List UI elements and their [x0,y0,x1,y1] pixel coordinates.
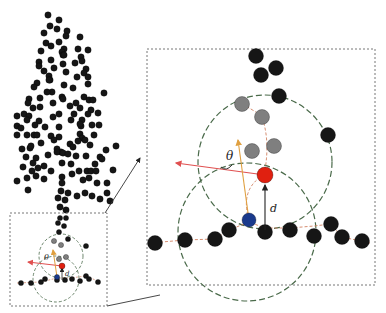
point [95,279,100,284]
tree-point [56,124,62,130]
tree-point [50,114,56,120]
tree-point [48,57,54,63]
tree-point [61,82,67,88]
point [63,215,68,220]
zoom-arrow-top [105,158,140,213]
tree-point [73,153,79,159]
tree-point [32,122,38,128]
tree-point [65,151,71,157]
tree-point [97,196,103,202]
tree-point [20,164,26,170]
tree-point [35,165,41,171]
tree-point [18,125,24,131]
tree-point [23,154,29,160]
point [254,68,269,83]
tree-point-cloud [14,12,119,213]
tree-point [41,176,47,182]
tree-point [79,58,85,64]
tree-point [45,12,51,18]
seed-point [242,213,256,227]
tree-point [77,105,83,111]
tree-point [37,104,43,110]
tree-point [14,178,20,184]
tree-point [38,48,44,54]
tree-point [25,100,31,106]
tree-point [54,149,60,155]
tree-point [76,168,82,174]
tree-point [30,160,36,166]
distance-label: d [270,202,277,215]
tree-point [19,146,25,152]
tree-point [41,163,47,169]
tree-point [94,180,100,186]
tree-point [74,74,80,80]
tree-point [61,52,67,58]
tree-point [103,147,109,153]
point [148,236,163,251]
tree-point [68,161,74,167]
theta-label: θ [44,253,49,262]
tree-point [104,190,110,196]
tree-point [77,121,83,127]
tree-point [60,96,66,102]
tree-point [65,190,71,196]
tree-point [63,69,69,75]
tree-point [89,193,95,199]
direction-arrow [28,262,62,266]
tree-point [68,117,74,123]
tree-point [37,95,43,101]
tree-point [83,153,89,159]
point [335,230,350,245]
tree-point [25,187,31,193]
point [283,223,298,238]
point [272,89,287,104]
tree-point [71,111,77,117]
current-point [59,263,65,269]
detail-frame [147,49,375,285]
tree-point [56,39,62,45]
distance-label: d [65,270,70,278]
tree-point [70,144,76,150]
tree-point [91,132,97,138]
tree-point [99,156,105,162]
tree-point [28,143,34,149]
tree-point [89,122,95,128]
tree-point [59,174,65,180]
tree-point [92,161,98,167]
tree-point [42,124,48,130]
point [83,243,88,248]
point [269,61,284,76]
tree-point [46,77,52,83]
neighbor-point [56,256,61,261]
neighbor-point [51,238,56,243]
tree-point [67,103,73,109]
tree-point [86,175,92,181]
tree-point [14,132,20,138]
tree-point [41,30,47,36]
point [307,229,322,244]
tree-point [55,195,61,201]
tree-point [56,17,62,23]
tree-point [34,132,40,138]
point-cloud-diagram: θd θd [0,0,386,313]
tree-point [36,63,42,69]
tree-point [72,60,78,66]
neighbor-point [63,254,68,259]
point [355,234,370,249]
tree-point [75,46,81,52]
tree-point [31,84,37,90]
tree-point [41,68,47,74]
tree-point [85,74,91,80]
neighbor-point [267,139,282,154]
point [56,229,61,234]
tree-point [30,105,36,111]
tree-point [95,110,101,116]
tree-point [51,65,57,71]
tree-point [63,207,69,213]
tree-point [101,90,107,96]
tree-point [51,137,57,143]
tree-point [82,137,88,143]
tree-point [24,175,30,181]
tree-point [70,85,76,91]
tree-point [48,43,54,49]
